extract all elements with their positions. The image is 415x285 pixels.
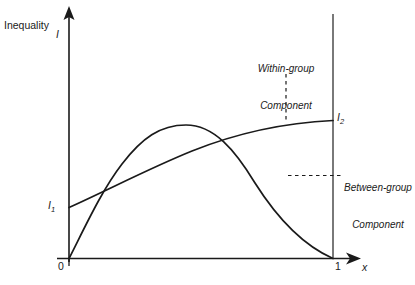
curve-inverted-u <box>69 125 333 259</box>
y-tick-label-i1: I1 <box>48 199 55 214</box>
between-group-line2: Component <box>340 219 415 231</box>
x-axis <box>57 253 361 265</box>
within-group-line2: Component <box>236 100 336 112</box>
y-axis-title: Inequality <box>4 19 49 32</box>
i2-subscript: 2 <box>340 117 344 126</box>
chart-figure: Inequality I 0 I1 I2 1 x Within-group Co… <box>0 0 415 285</box>
x-tick-label-one: 1 <box>335 260 341 273</box>
y-axis <box>64 6 75 262</box>
i1-subscript: 1 <box>51 205 55 214</box>
within-group-line1: Within-group <box>236 63 336 75</box>
between-group-annotation: Between-group Component <box>340 158 415 256</box>
y-axis-symbol: I <box>56 28 59 41</box>
y-tick-label-i2: I2 <box>337 111 344 126</box>
origin-label: 0 <box>58 260 64 273</box>
within-group-annotation: Within-group Component <box>236 39 336 137</box>
between-group-line1: Between-group <box>340 182 415 194</box>
x-axis-symbol: x <box>362 261 367 274</box>
